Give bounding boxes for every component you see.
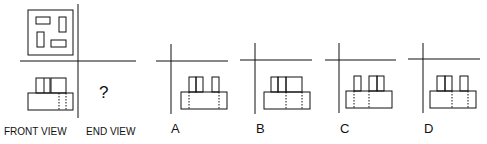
option-d-label[interactable]: D — [424, 121, 433, 136]
option-c-figure[interactable] — [325, 43, 396, 113]
option-c-label[interactable]: C — [340, 121, 349, 136]
option-b-label[interactable]: B — [256, 121, 265, 136]
option-a-figure[interactable] — [156, 44, 228, 114]
top-view — [28, 10, 73, 55]
option-a-label[interactable]: A — [171, 121, 180, 136]
question-mark: ? — [99, 83, 108, 103]
front-view-label: FRONT VIEW — [4, 126, 67, 137]
front-view — [28, 78, 73, 110]
option-d-figure[interactable] — [408, 43, 480, 113]
end-view-label: END VIEW — [86, 126, 135, 137]
option-b-figure[interactable] — [240, 43, 312, 114]
orthographic-diagram — [0, 0, 487, 144]
